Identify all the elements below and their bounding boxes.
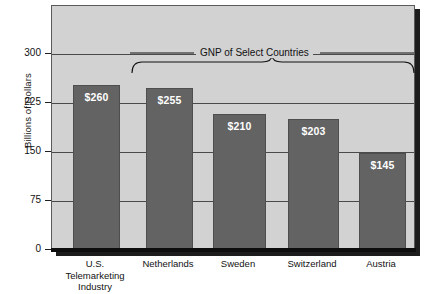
bar-us-telemarketing-industry[interactable]: $260 <box>73 85 120 251</box>
y-tick-label-150: 150 <box>7 146 41 156</box>
plot-area: $260 $255 $210 $203 $145 <box>51 5 415 252</box>
y-axis-title: Billions of Dollars <box>22 36 33 186</box>
bar-netherlands[interactable]: $255 <box>146 88 193 251</box>
bar-chart: Billions of Dollars 300 225 150 75 0 $26… <box>0 0 429 294</box>
cat-line-1: Sweden <box>200 258 276 270</box>
x-category-label-netherlands: Netherlands <box>128 258 208 270</box>
x-category-label-austria: Austria <box>344 258 418 270</box>
bar-value-label: $255 <box>147 94 192 106</box>
bar-austria[interactable]: $145 <box>359 153 406 251</box>
cat-line-1: Netherlands <box>128 258 208 270</box>
x-category-label-sweden: Sweden <box>200 258 276 270</box>
y-tick-label-300: 300 <box>7 48 41 58</box>
y-tick-label-225: 225 <box>7 97 41 107</box>
cat-line-1: U.S. <box>52 258 138 270</box>
x-category-label-us-telemarketing-industry: U.S. Telemarketing Industry <box>52 258 138 293</box>
y-tick-label-75: 75 <box>7 195 41 205</box>
bar-value-label: $203 <box>289 125 338 137</box>
annotation-label: GNP of Select Countries <box>196 47 313 58</box>
cat-line-1: Austria <box>344 258 418 270</box>
x-category-label-switzerland: Switzerland <box>272 258 352 270</box>
y-tick-label-0: 0 <box>7 244 41 254</box>
bar-value-label: $210 <box>214 120 265 132</box>
cat-line-2: Telemarketing <box>52 270 138 282</box>
cat-line-3: Industry <box>52 281 138 293</box>
cat-line-1: Switzerland <box>272 258 352 270</box>
bar-value-label: $260 <box>74 91 119 103</box>
x-axis-baseline <box>51 248 416 252</box>
bar-switzerland[interactable]: $203 <box>288 119 339 251</box>
bar-value-label: $145 <box>360 159 405 171</box>
bar-sweden[interactable]: $210 <box>213 114 266 251</box>
